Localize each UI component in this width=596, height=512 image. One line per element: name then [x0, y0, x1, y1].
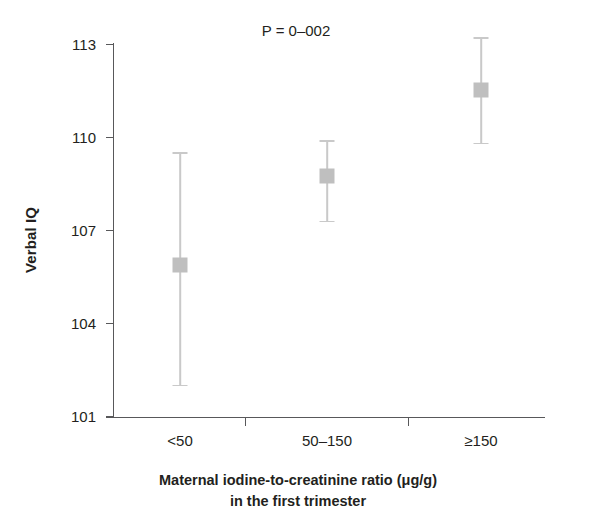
- y-axis-tick-104: [106, 323, 114, 324]
- error-bar-cap-lower-0: [173, 385, 188, 387]
- error-bar-cap-upper-1: [320, 140, 335, 142]
- data-point-marker-0: [173, 258, 188, 273]
- y-axis-title: Verbal IQ: [22, 207, 39, 273]
- x-axis-category-label-1: 50–150: [302, 432, 352, 449]
- x-axis-line: [113, 417, 545, 418]
- x-axis-category-label-0: <50: [167, 432, 192, 449]
- y-axis-tick-label-113: 113: [52, 36, 96, 53]
- x-axis-title-line-2: in the first trimester: [0, 491, 596, 512]
- y-axis-tick-label-110: 110: [52, 129, 96, 146]
- x-axis-category-label-2: ≥150: [464, 432, 497, 449]
- y-axis-tick-label-104: 104: [52, 315, 96, 332]
- p-value-annotation: P = 0–002: [262, 22, 331, 39]
- y-axis-tick-107: [106, 230, 114, 231]
- y-axis-tick-110: [106, 137, 114, 138]
- y-axis-tick-label-101: 101: [52, 408, 96, 425]
- verbal-iq-scatter-chart: Verbal IQ 113 110 107 104 101 <50 50–150…: [0, 0, 596, 512]
- error-bar-cap-upper-2: [474, 37, 489, 39]
- error-bar-cap-upper-0: [173, 152, 188, 154]
- error-bar-cap-lower-1: [320, 221, 335, 223]
- y-axis-tick-label-107: 107: [52, 222, 96, 239]
- x-axis-tick-1: [245, 417, 246, 426]
- x-axis-tick-2: [408, 417, 409, 426]
- y-axis-tick-101: [106, 416, 114, 417]
- x-axis-title-line-1: Maternal iodine-to-creatinine ratio (μg/…: [159, 472, 437, 488]
- data-point-marker-1: [320, 169, 335, 184]
- error-bar-cap-lower-2: [474, 143, 489, 145]
- y-axis-tick-113: [106, 44, 114, 45]
- x-axis-title: Maternal iodine-to-creatinine ratio (μg/…: [0, 470, 596, 512]
- data-point-marker-2: [474, 83, 489, 98]
